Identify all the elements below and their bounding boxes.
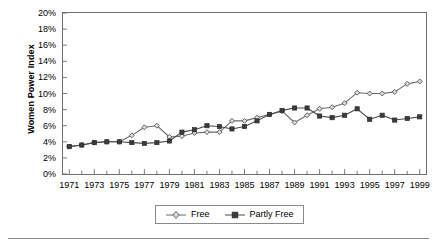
plot-svg [63,13,426,174]
x-tick-label: 1991 [310,180,330,191]
x-tick-label: 1981 [184,180,204,191]
series-free [67,79,422,149]
series-partly-free [67,106,422,149]
legend-item-partly-free[interactable]: Partly Free [224,209,294,220]
x-tick-label: 1971 [59,180,79,191]
y-tick-label: 10% [38,89,56,99]
x-tick-label: 1999 [410,180,430,191]
x-tick-label: 1977 [134,180,154,191]
x-tick-label: 1985 [234,180,254,191]
x-tick-label: 1975 [109,180,129,191]
x-tick-label: 1997 [385,180,405,191]
x-tick-label: 1993 [335,180,355,191]
chart-figure: Women Power Index 0%2%4%6%8%10%12%14%16%… [0,0,437,250]
y-tick-label: 4% [43,137,56,147]
y-tick-label: 2% [43,153,56,163]
y-tick-label: 20% [38,8,56,18]
legend-item-free[interactable]: Free [165,209,210,220]
x-tick-label: 1987 [260,180,280,191]
legend-label-free: Free [191,209,210,220]
y-tick-label: 0% [43,169,56,179]
y-tick-label: 16% [38,40,56,50]
y-axis-tick-labels: 0%2%4%6%8%10%12%14%16%18%20% [26,7,56,182]
y-tick-label: 18% [38,24,56,34]
x-axis-tick-labels: 1971197319751977197919811983198519871989… [62,180,427,194]
legend-label-partly-free: Partly Free [250,209,294,220]
line-diamond-marker-icon [165,210,187,220]
plot-area [62,12,427,175]
y-tick-label: 14% [38,56,56,66]
x-tick-label: 1995 [360,180,380,191]
y-tick-label: 6% [43,121,56,131]
x-tick-label: 1983 [209,180,229,191]
chart-legend: Free Partly Free [155,205,304,224]
x-tick-label: 1973 [84,180,104,191]
footer-divider [8,238,429,239]
x-tick-label: 1989 [285,180,305,191]
x-tick-label: 1979 [159,180,179,191]
line-square-marker-icon [224,210,246,220]
y-tick-label: 8% [43,105,56,115]
y-tick-label: 12% [38,72,56,82]
